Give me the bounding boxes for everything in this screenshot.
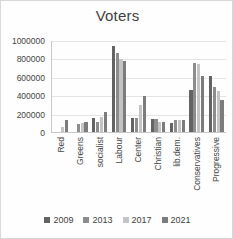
- x-tick-label: Red: [56, 137, 66, 153]
- legend-label: 2021: [171, 215, 191, 225]
- bar-group: [168, 41, 187, 133]
- bar[interactable]: [193, 63, 196, 133]
- chart-legend: 2009201320172021: [1, 215, 233, 225]
- x-axis-category: Greens: [70, 135, 89, 207]
- x-tick-label: Conservatives: [192, 137, 202, 191]
- bar[interactable]: [209, 76, 212, 133]
- bar[interactable]: [139, 105, 142, 133]
- bar[interactable]: [143, 96, 146, 133]
- legend-label: 2009: [53, 215, 73, 225]
- bar[interactable]: [201, 76, 204, 133]
- legend-label: 2017: [132, 215, 152, 225]
- bar[interactable]: [135, 118, 138, 133]
- bar[interactable]: [151, 119, 154, 133]
- x-tick-label: Christian: [153, 137, 163, 171]
- x-axis: RedGreenssocialistLabourCenterChristianl…: [51, 135, 226, 207]
- x-axis-category: Center: [129, 135, 148, 207]
- bars-layer: [51, 41, 226, 133]
- bar-group: [148, 41, 167, 133]
- x-tick-label: Greens: [75, 137, 85, 165]
- chart-container: Voters 02000004000006000008000001000000 …: [0, 0, 233, 239]
- bar[interactable]: [213, 87, 216, 133]
- x-axis-category: Labour: [109, 135, 128, 207]
- legend-swatch-icon: [123, 217, 129, 223]
- bar-group: [187, 41, 206, 133]
- y-tick-label: 200000: [17, 110, 45, 120]
- plot-area: [51, 41, 226, 133]
- y-tick-label: 400000: [17, 91, 45, 101]
- legend-swatch-icon: [83, 217, 89, 223]
- chart-title: Voters: [1, 7, 233, 24]
- y-tick-label: 0: [40, 128, 45, 138]
- bar[interactable]: [100, 117, 103, 133]
- x-axis-category: Red: [51, 135, 70, 207]
- bar-group: [109, 41, 128, 133]
- legend-item[interactable]: 2017: [123, 215, 152, 225]
- bar-group: [51, 41, 70, 133]
- bar[interactable]: [220, 100, 223, 133]
- x-axis-category: Conservatives: [187, 135, 206, 207]
- bar[interactable]: [104, 112, 107, 133]
- legend-item[interactable]: 2013: [83, 215, 112, 225]
- bar[interactable]: [217, 91, 220, 133]
- bar-group: [90, 41, 109, 133]
- bar-group: [70, 41, 89, 133]
- x-tick-label: Progressive: [211, 137, 221, 182]
- x-axis-category: Christian: [148, 135, 167, 207]
- bar[interactable]: [92, 118, 95, 133]
- y-tick-label: 800000: [17, 54, 45, 64]
- x-axis-category: lib.dem.: [168, 135, 187, 207]
- y-axis: 02000004000006000008000001000000: [1, 41, 48, 133]
- legend-item[interactable]: 2021: [162, 215, 191, 225]
- bar[interactable]: [197, 64, 200, 133]
- bar[interactable]: [154, 119, 157, 133]
- x-axis-category: Progressive: [207, 135, 226, 207]
- bar[interactable]: [123, 61, 126, 133]
- legend-swatch-icon: [44, 217, 50, 223]
- x-axis-category: socialist: [90, 135, 109, 207]
- legend-swatch-icon: [162, 217, 168, 223]
- legend-label: 2013: [92, 215, 112, 225]
- bar[interactable]: [189, 90, 192, 133]
- bar[interactable]: [131, 118, 134, 133]
- y-axis-line: [51, 41, 52, 133]
- bar[interactable]: [119, 59, 122, 133]
- bar[interactable]: [112, 46, 115, 133]
- bar-group: [207, 41, 226, 133]
- x-tick-label: Labour: [114, 137, 124, 163]
- bar-group: [129, 41, 148, 133]
- bar[interactable]: [116, 53, 119, 134]
- legend-item[interactable]: 2009: [44, 215, 73, 225]
- y-tick-label: 1000000: [12, 36, 45, 46]
- x-tick-label: socialist: [95, 137, 105, 167]
- y-tick-label: 600000: [17, 73, 45, 83]
- axis-baseline: [51, 132, 226, 133]
- x-tick-label: Center: [133, 137, 143, 163]
- x-tick-label: lib.dem.: [172, 137, 182, 167]
